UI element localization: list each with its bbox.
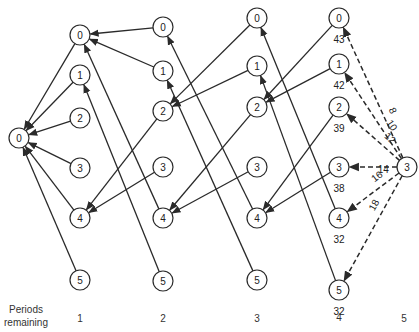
transition-edge: [261, 28, 335, 209]
transition-edge: [170, 115, 251, 210]
transition-edge: [266, 69, 330, 102]
node-value-label: 43: [333, 34, 345, 45]
node-state-label: 2: [77, 113, 83, 124]
state-node: 4: [153, 208, 173, 228]
node-state-label: 3: [254, 162, 260, 173]
period-label-3: 3: [254, 313, 260, 324]
state-node: 239: [329, 97, 349, 134]
node-value-label: 42: [333, 80, 345, 91]
dashed-edges-layer: 81012141618: [343, 28, 402, 281]
node-state-label: 0: [254, 13, 260, 24]
node-state-label: 2: [336, 102, 342, 113]
decision-edge: [344, 176, 402, 281]
state-node: 3: [153, 157, 173, 177]
node-state-label: 1: [160, 66, 166, 77]
state-node: 338: [329, 157, 349, 194]
node-state-label: 2: [160, 106, 166, 117]
state-node: 2: [247, 97, 267, 117]
network-canvas: 81012141618 0012345012345012345043142239…: [0, 0, 419, 332]
transition-edge: [28, 143, 71, 164]
node-state-label: 4: [160, 213, 166, 224]
state-node: 432: [329, 208, 349, 245]
node-state-label: 5: [336, 285, 342, 296]
node-state-label: 3: [336, 162, 342, 173]
state-node: 5: [70, 270, 90, 290]
state-node: 1: [153, 61, 173, 81]
node-value-label: 32: [333, 234, 345, 245]
node-state-label: 5: [77, 275, 83, 286]
transition-edge: [24, 44, 75, 129]
node-value-label: 39: [333, 123, 345, 134]
state-node: 4: [70, 208, 90, 228]
state-node: 0: [247, 8, 267, 28]
state-node: 3: [247, 157, 267, 177]
node-state-label: 3: [404, 162, 410, 173]
cost-label: 8: [387, 106, 399, 116]
state-node: 142: [329, 54, 349, 91]
node-state-label: 1: [77, 70, 83, 81]
transition-edge: [261, 76, 336, 281]
transition-edge: [29, 121, 71, 135]
transition-edge: [90, 28, 153, 34]
node-state-label: 2: [254, 102, 260, 113]
transition-edge: [170, 25, 249, 104]
transition-edge: [86, 119, 156, 210]
state-node: 3: [70, 158, 90, 178]
transition-edge: [168, 36, 253, 209]
transition-edge: [23, 148, 76, 271]
node-state-label: 4: [254, 213, 260, 224]
transition-edge: [264, 25, 332, 99]
node-state-label: 3: [160, 162, 166, 173]
transition-edge: [172, 70, 248, 106]
node-state-label: 3: [77, 163, 83, 174]
node-state-label: 1: [254, 61, 260, 72]
axis-title-line2: remaining: [4, 317, 48, 328]
state-node: 3: [397, 157, 417, 177]
node-state-label: 4: [77, 213, 83, 224]
transition-edge: [84, 45, 159, 209]
transition-edge: [90, 39, 154, 67]
node-state-label: 5: [254, 275, 260, 286]
state-node: 2: [153, 101, 173, 121]
cost-label: 12: [382, 130, 398, 146]
state-node: 5: [153, 271, 173, 291]
node-state-label: 0: [336, 13, 342, 24]
period-label-2: 2: [160, 313, 166, 324]
state-node: 0: [153, 17, 173, 37]
state-node: 0: [9, 128, 29, 148]
edges-layer: [23, 25, 335, 281]
node-state-label: 5: [160, 276, 166, 287]
state-node: 1: [70, 65, 90, 85]
state-node: 1: [247, 56, 267, 76]
node-state-label: 0: [77, 30, 83, 41]
node-state-label: 0: [160, 22, 166, 33]
state-node: 5: [247, 270, 267, 290]
period-label-1: 1: [77, 313, 83, 324]
node-value-label: 38: [333, 183, 345, 194]
transition-edge: [25, 146, 74, 210]
period-label-5: 5: [401, 313, 407, 324]
node-state-label: 0: [16, 133, 22, 144]
cost-label: 18: [367, 197, 382, 212]
dp-network-diagram: 81012141618 0012345012345012345043142239…: [0, 0, 419, 332]
periods-axis: Periods remaining 1 2 3 4 5: [4, 304, 407, 328]
state-node: 4: [247, 208, 267, 228]
transition-edge: [263, 115, 333, 210]
node-state-label: 1: [336, 59, 342, 70]
period-label-4: 4: [336, 312, 342, 323]
state-node: 2: [70, 108, 90, 128]
cost-label: 10: [384, 117, 400, 133]
axis-title-line1: Periods: [9, 304, 43, 315]
decision-edge: [345, 73, 402, 159]
node-state-label: 4: [336, 213, 342, 224]
state-node: 0: [70, 25, 90, 45]
transition-edge: [84, 85, 159, 272]
